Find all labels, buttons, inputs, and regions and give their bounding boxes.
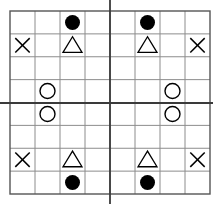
- filled-circle-icon: [65, 15, 80, 30]
- symmetry-pattern-figure: [0, 0, 213, 204]
- triangle-icon: [63, 37, 82, 53]
- open-circle-icon: [40, 106, 55, 121]
- triangle-icon: [63, 151, 82, 167]
- triangle-icon: [138, 151, 157, 167]
- grid-canvas: [0, 0, 213, 204]
- open-circle-icon: [165, 106, 180, 121]
- filled-circle-icon: [65, 175, 80, 190]
- triangle-icon: [138, 37, 157, 53]
- open-circle-icon: [40, 84, 55, 99]
- open-circle-icon: [165, 84, 180, 99]
- filled-circle-icon: [140, 15, 155, 30]
- filled-circle-icon: [140, 175, 155, 190]
